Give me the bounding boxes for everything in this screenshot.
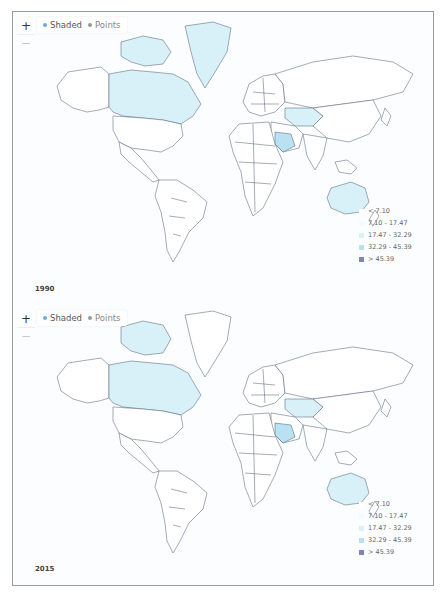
zoom-out-button[interactable]: − (17, 34, 35, 51)
legend-label: > 45.39 (368, 255, 394, 263)
year-label: 1990 (35, 285, 54, 293)
legend: < 7.10 7.10 - 17.47 17.47 - 32.29 32.29 … (359, 498, 419, 558)
legend-swatch-icon (359, 526, 364, 531)
region-japan (381, 399, 391, 417)
legend-label: 32.29 - 45.39 (368, 243, 412, 251)
legend-row: 7.10 - 17.47 (359, 217, 419, 229)
region-south-america (155, 471, 207, 553)
legend-row: 7.10 - 17.47 (359, 510, 419, 522)
legend-swatch-icon (359, 550, 364, 555)
legend-label: > 45.39 (368, 548, 394, 556)
region-se-asia (335, 451, 357, 465)
region-south-america (155, 180, 207, 262)
region-russia (275, 56, 413, 108)
legend-swatch-icon (359, 257, 364, 262)
shaded-dot-icon (43, 316, 47, 320)
region-india (303, 425, 327, 461)
legend-swatch-icon (359, 245, 364, 250)
layer-toggle: Shaded Points (37, 310, 127, 326)
shaded-option[interactable]: Shaded (43, 20, 82, 30)
shaded-dot-icon (43, 23, 47, 27)
region-se-asia (335, 160, 357, 174)
zoom-in-button[interactable]: + (17, 311, 35, 327)
region-greenland (185, 22, 231, 88)
shaded-label: Shaded (50, 20, 82, 30)
map-frame: + − Shaded Points < 7.10 7.10 - 17.47 17… (12, 11, 434, 586)
legend-swatch-icon (359, 538, 364, 543)
year-label: 2015 (35, 565, 54, 573)
legend-row: 17.47 - 32.29 (359, 522, 419, 534)
shaded-option[interactable]: Shaded (43, 313, 82, 323)
legend-label: < 7.10 (368, 500, 390, 508)
legend-row: < 7.10 (359, 205, 419, 217)
region-alaska (57, 358, 109, 403)
points-label: Points (95, 313, 121, 323)
points-option[interactable]: Points (88, 313, 121, 323)
legend-swatch-icon (359, 221, 364, 226)
legend-swatch-icon (359, 209, 364, 214)
legend-swatch-icon (359, 514, 364, 519)
legend-row: 32.29 - 45.39 (359, 241, 419, 253)
legend-row: 32.29 - 45.39 (359, 534, 419, 546)
zoom-controls: + − (17, 311, 35, 344)
region-india (303, 134, 327, 170)
legend-row: < 7.10 (359, 498, 419, 510)
region-japan (381, 108, 391, 126)
legend: < 7.10 7.10 - 17.47 17.47 - 32.29 32.29 … (359, 205, 419, 265)
legend-label: 32.29 - 45.39 (368, 536, 412, 544)
legend-row: 17.47 - 32.29 (359, 229, 419, 241)
layer-toggle: Shaded Points (37, 17, 127, 33)
legend-row: > 45.39 (359, 253, 419, 265)
zoom-out-button[interactable]: − (17, 327, 35, 344)
region-russia (275, 347, 413, 399)
points-dot-icon (88, 316, 92, 320)
map-panel-1990[interactable]: + − Shaded Points < 7.10 7.10 - 17.47 17… (13, 12, 433, 305)
shaded-label: Shaded (50, 313, 82, 323)
region-alaska (57, 67, 109, 112)
points-option[interactable]: Points (88, 20, 121, 30)
region-arctic-islands (121, 321, 171, 355)
region-canada (109, 361, 201, 415)
legend-label: 7.10 - 17.47 (368, 219, 408, 227)
legend-label: < 7.10 (368, 207, 390, 215)
legend-swatch-icon (359, 502, 364, 507)
legend-row: > 45.39 (359, 546, 419, 558)
zoom-controls: + − (17, 18, 35, 51)
region-arctic-islands (121, 36, 171, 66)
legend-label: 7.10 - 17.47 (368, 512, 408, 520)
points-label: Points (95, 20, 121, 30)
points-dot-icon (88, 23, 92, 27)
legend-swatch-icon (359, 233, 364, 238)
region-canada (109, 70, 201, 124)
map-panel-2015[interactable]: + − Shaded Points < 7.10 7.10 - 17.47 17… (13, 305, 433, 585)
region-greenland (185, 311, 231, 377)
zoom-in-button[interactable]: + (17, 18, 35, 34)
legend-label: 17.47 - 32.29 (368, 231, 412, 239)
legend-label: 17.47 - 32.29 (368, 524, 412, 532)
